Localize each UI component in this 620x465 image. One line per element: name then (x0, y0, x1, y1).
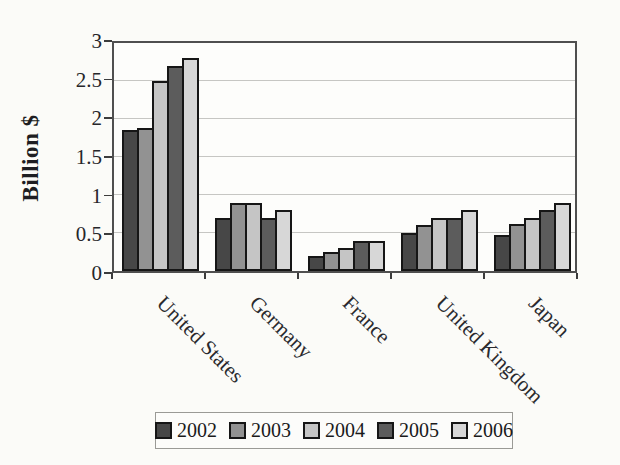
bar-group-france (300, 43, 393, 271)
bar-2006 (368, 241, 385, 271)
bar-group-united-kingdom (393, 43, 486, 271)
legend-swatch-2004 (303, 422, 320, 439)
x-tick-mark (390, 273, 392, 279)
y-tick-label: 0.5 (58, 222, 102, 246)
x-tick-mark (111, 273, 113, 279)
legend-label: 2004 (325, 419, 365, 442)
y-tick-label: 1.5 (58, 145, 102, 169)
bar-2006 (461, 210, 478, 271)
y-tick-label: 2.5 (58, 68, 102, 92)
bar-2006 (554, 203, 571, 271)
legend-label: 2003 (251, 419, 291, 442)
y-axis-title: Billion $ (18, 115, 44, 202)
legend-label: 2006 (473, 419, 513, 442)
legend-label: 2002 (177, 419, 217, 442)
x-category-label-france: France (337, 291, 395, 349)
legend-item-2005: 2005 (377, 419, 439, 442)
bar-2006 (182, 58, 199, 271)
y-tick-mark (104, 40, 112, 42)
legend-swatch-2002 (155, 422, 172, 439)
legend-item-2004: 2004 (303, 419, 365, 442)
x-tick-mark (483, 273, 485, 279)
x-category-label-germany: Germany (244, 291, 317, 364)
legend-swatch-2006 (451, 422, 468, 439)
x-tick-mark (204, 273, 206, 279)
legend-label: 2005 (399, 419, 439, 442)
bar-group-united-states (114, 43, 207, 271)
y-tick-mark (104, 233, 112, 235)
plot-area (112, 41, 577, 273)
x-category-label-japan: Japan (523, 291, 574, 342)
bar-chart: Billion $ 20022003200420052006 32.521.51… (0, 0, 620, 465)
legend-swatch-2003 (229, 422, 246, 439)
x-tick-mark (576, 273, 578, 279)
legend-item-2002: 2002 (155, 419, 217, 442)
y-tick-mark (104, 195, 112, 197)
bar-group-germany (207, 43, 300, 271)
y-tick-mark (104, 79, 112, 81)
legend: 20022003200420052006 (155, 412, 513, 449)
legend-swatch-2005 (377, 422, 394, 439)
x-category-label-united-states: United States (151, 291, 248, 388)
y-tick-label: 1 (58, 184, 102, 208)
legend-item-2006: 2006 (451, 419, 513, 442)
bar-2006 (275, 210, 292, 271)
y-tick-mark (104, 117, 112, 119)
bar-group-japan (486, 43, 579, 271)
y-tick-label: 2 (58, 106, 102, 130)
x-tick-mark (297, 273, 299, 279)
y-tick-mark (104, 156, 112, 158)
legend-item-2003: 2003 (229, 419, 291, 442)
y-tick-label: 0 (58, 261, 102, 285)
y-tick-label: 3 (58, 29, 102, 53)
